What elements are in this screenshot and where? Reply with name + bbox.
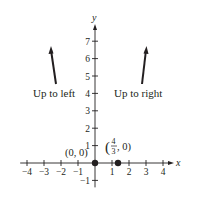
x-tick-label: 1: [110, 167, 115, 177]
x-axis-arrow-icon: [168, 161, 174, 165]
open-paren: (: [105, 139, 110, 156]
y-tick-label: 4: [85, 89, 90, 99]
y-tick-label: 7: [85, 37, 90, 47]
x-tick-label: −3: [39, 167, 49, 177]
x-tick-label: 4: [161, 167, 166, 177]
x-tick-label: −4: [22, 167, 32, 177]
graph-figure: −4−3−2−11234−11234567 y x Up to left Up …: [0, 0, 200, 205]
note-up-to-left: Up to left: [33, 87, 75, 99]
y-tick-label: 6: [85, 54, 90, 64]
point-origin-label: (0, 0): [65, 147, 88, 159]
point-four-thirds: [115, 160, 121, 166]
y-tick-label: −1: [80, 176, 90, 186]
arrow-up-left: [49, 46, 57, 84]
x-tick-label: −2: [56, 167, 66, 177]
y-axis-label: y: [91, 12, 97, 23]
x-axis-label: x: [175, 157, 181, 168]
fraction-rest: , 0): [117, 141, 132, 153]
y-tick-label: 5: [85, 72, 90, 82]
x-tick-label: 3: [144, 167, 149, 177]
x-tick-label: 2: [127, 167, 132, 177]
y-axis-arrow-icon: [93, 24, 97, 30]
arrow-up-right: [142, 46, 149, 84]
point-origin: [92, 160, 98, 166]
y-tick-label: 2: [85, 124, 90, 134]
fraction-numerator: 4: [112, 137, 116, 146]
note-up-to-right: Up to right: [114, 87, 162, 99]
point-four-thirds-label: ( 4 3 , 0): [105, 137, 132, 156]
fraction-denominator: 3: [112, 147, 116, 156]
y-tick-label: 3: [85, 106, 90, 116]
